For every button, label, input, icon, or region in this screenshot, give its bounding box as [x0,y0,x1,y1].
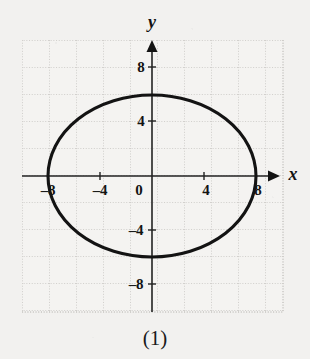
x-tick-label-neg-8: –8 [41,183,56,198]
y-axis-label: y [148,13,156,31]
coordinate-plane-svg [0,0,310,359]
x-tick-label-0: 0 [135,183,142,198]
y-tick-label-8: 8 [137,60,144,75]
y-tick-label-neg-4: –4 [129,223,144,238]
x-tick-label-4: 4 [202,183,209,198]
x-tick-label-8: 8 [254,183,261,198]
figure-caption: (1) [143,328,168,349]
graph-figure: 8 4 –4 –8 –8 –4 0 4 8 y x (1) [0,0,310,359]
x-axis-label: x [289,165,298,183]
x-tick-label-neg-4: –4 [93,183,108,198]
y-tick-label-4: 4 [137,114,144,129]
y-tick-label-neg-8: –8 [129,277,144,292]
